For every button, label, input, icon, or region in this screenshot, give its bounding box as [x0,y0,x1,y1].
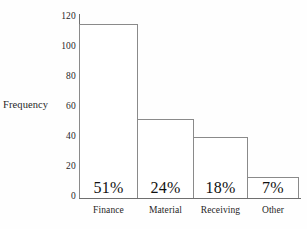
bar-data-label: 24% [138,180,193,196]
bar: 24% [137,119,194,198]
y-axis-title: Frequency [3,99,48,110]
bar-data-label: 51% [80,180,137,196]
x-axis-line [79,198,301,199]
x-axis-category-label: Material [137,205,194,215]
y-tick-label: 60 [50,101,76,111]
y-axis-tick-labels: 120 100 80 60 40 20 0 [48,0,76,229]
y-tick-label: 40 [50,131,76,141]
y-tick-label: 0 [50,191,76,201]
bar-chart: Frequency 120 100 80 60 40 20 0 51% 24% … [0,0,307,229]
y-tick-label: 80 [50,71,76,81]
bar-data-label: 7% [248,180,298,196]
x-axis-category-label: Receiving [193,205,248,215]
bar-data-label: 18% [194,180,247,196]
x-axis-category-label: Finance [79,205,138,215]
x-axis-category-label: Other [247,205,299,215]
bar: 7% [247,177,299,198]
plot-area: 51% 24% 18% 7% [79,16,300,198]
y-tick-label: 100 [50,41,76,51]
bar: 51% [79,24,138,198]
bar: 18% [193,137,248,198]
y-tick-label: 120 [50,11,76,21]
y-tick-label: 20 [50,161,76,171]
